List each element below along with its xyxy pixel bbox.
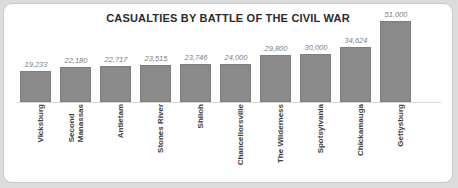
category-label-line: Chickamauga	[356, 104, 365, 156]
bar[interactable]	[380, 21, 411, 102]
category-label-line: Stones River	[156, 104, 165, 153]
bar-wrap: 51,000	[377, 16, 415, 102]
category-label-wrap: Antietam	[97, 104, 135, 176]
category-label-line: Chancellorsville	[236, 104, 245, 165]
bar-wrap: 24,000	[217, 16, 255, 102]
category-label-line: The Wilderness	[276, 104, 285, 163]
category-label-line: Shiloh	[196, 104, 205, 128]
bar[interactable]	[340, 47, 371, 102]
category-label: Gettysburg	[396, 104, 405, 147]
bar-column[interactable]: 51,000Gettysburg	[377, 16, 415, 176]
category-label: Shiloh	[196, 104, 205, 128]
bar-column[interactable]: 34,624Chickamauga	[337, 16, 375, 176]
category-label: SecondManassas	[67, 104, 85, 142]
bar-wrap: 23,515	[137, 16, 175, 102]
category-label: The Wilderness	[276, 104, 285, 163]
bar[interactable]	[300, 54, 331, 102]
bar-wrap: 23,746	[177, 16, 215, 102]
category-label-line: Manassas	[76, 104, 85, 142]
plot-area: 19,233Vicksburg22,180SecondManassas22,71…	[17, 16, 441, 176]
bar-column[interactable]: 29,800The Wilderness	[257, 16, 295, 176]
bar-wrap: 22,717	[97, 16, 135, 102]
bar-column[interactable]: 23,746Shiloh	[177, 16, 215, 176]
category-label-line: Gettysburg	[396, 104, 405, 147]
bar[interactable]	[260, 55, 291, 102]
category-label-wrap: Vicksburg	[17, 104, 55, 176]
bar-column[interactable]: 22,180SecondManassas	[57, 16, 95, 176]
bar[interactable]	[220, 64, 251, 102]
category-label-wrap: Stones River	[137, 104, 175, 176]
category-label: Chickamauga	[356, 104, 365, 156]
bar-column[interactable]: 30,000Spotsylvania	[297, 16, 335, 176]
category-label-wrap: Shiloh	[177, 104, 215, 176]
bar-wrap: 19,233	[17, 16, 55, 102]
category-label-wrap: Gettysburg	[377, 104, 415, 176]
bar[interactable]	[180, 64, 211, 102]
category-label-line: Vicksburg	[36, 104, 45, 143]
bar-value-label: 24,000	[211, 53, 261, 62]
bar-column[interactable]: 23,515Stones River	[137, 16, 175, 176]
bar[interactable]	[100, 66, 131, 102]
category-label: Stones River	[156, 104, 165, 153]
bar-column[interactable]: 22,717Antietam	[97, 16, 135, 176]
bar-wrap: 22,180	[57, 16, 95, 102]
bar-column[interactable]: 24,000Chancellorsville	[217, 16, 255, 176]
category-label: Antietam	[116, 104, 125, 138]
category-label-wrap: Spotsylvania	[297, 104, 335, 176]
category-label: Chancellorsville	[236, 104, 245, 165]
category-label: Vicksburg	[36, 104, 45, 143]
bar-wrap: 34,624	[337, 16, 375, 102]
bar[interactable]	[140, 65, 171, 102]
category-label-wrap: Chancellorsville	[217, 104, 255, 176]
category-label: Spotsylvania	[316, 104, 325, 153]
bar[interactable]	[60, 67, 91, 102]
screenshot-root: CASUALTIES BY BATTLE OF THE CIVIL WAR 19…	[0, 0, 458, 188]
bar-wrap: 29,800	[257, 16, 295, 102]
bar-wrap: 30,000	[297, 16, 335, 102]
chart-card: CASUALTIES BY BATTLE OF THE CIVIL WAR 19…	[3, 3, 453, 183]
category-label-wrap: The Wilderness	[257, 104, 295, 176]
bar-value-label: 51,000	[371, 10, 421, 19]
bar[interactable]	[20, 71, 51, 102]
category-label-wrap: SecondManassas	[57, 104, 95, 176]
category-label-line: Second	[67, 104, 76, 142]
bar-column[interactable]: 19,233Vicksburg	[17, 16, 55, 176]
category-label-wrap: Chickamauga	[337, 104, 375, 176]
bar-value-label: 34,624	[331, 36, 381, 45]
category-label-line: Spotsylvania	[316, 104, 325, 153]
category-label-line: Antietam	[116, 104, 125, 138]
